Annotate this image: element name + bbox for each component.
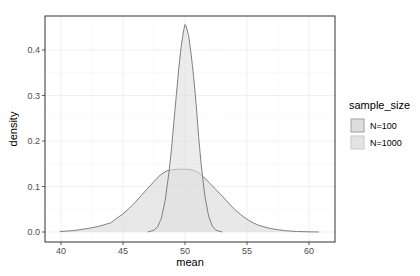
legend: sample_size N=100N=1000 (349, 99, 410, 150)
legend-keys: N=100N=1000 (350, 118, 402, 150)
y-tick-label: 0.1 (27, 182, 40, 192)
y-tick-label: 0.2 (27, 136, 40, 146)
x-tick-label: 45 (118, 246, 128, 256)
x-tick-label: 55 (242, 246, 252, 256)
legend-label: N=100 (370, 121, 397, 131)
density-chart: 0.00.10.20.30.4 4045505560 mean density … (0, 0, 420, 276)
y-tick-label: 0.0 (27, 227, 40, 237)
legend-key-swatch (351, 136, 364, 149)
legend-title: sample_size (349, 99, 410, 111)
x-tick-label: 50 (180, 246, 190, 256)
y-tick-label: 0.3 (27, 91, 40, 101)
x-axis: 4045505560 (56, 242, 314, 256)
x-tick-label: 60 (304, 246, 314, 256)
y-axis-title: density (7, 111, 19, 146)
legend-label: N=1000 (370, 138, 402, 148)
x-axis-title: mean (176, 256, 204, 268)
y-axis: 0.00.10.20.30.4 (27, 45, 45, 237)
x-tick-label: 40 (56, 246, 66, 256)
y-tick-label: 0.4 (27, 45, 40, 55)
legend-key-swatch (351, 119, 364, 132)
